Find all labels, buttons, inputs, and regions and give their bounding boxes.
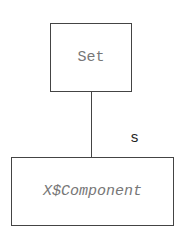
- association-role-label: s: [130, 130, 139, 147]
- set-node-label: Set: [77, 49, 104, 66]
- association-line: [91, 92, 92, 157]
- set-node: Set: [50, 23, 132, 92]
- component-node-label: X$Component: [43, 183, 142, 200]
- component-node: X$Component: [11, 157, 174, 226]
